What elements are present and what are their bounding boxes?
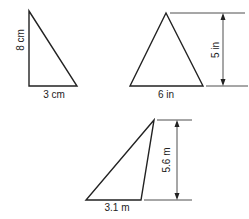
arrowhead-icon: [221, 79, 226, 86]
triangle-2-height-label: 5 in: [211, 35, 221, 65]
triangle-3-shape: [86, 120, 154, 200]
triangle-2-shape: [130, 13, 203, 86]
triangle-3-height-label: 5.6 m: [162, 143, 172, 177]
triangle-1-shape: [29, 11, 77, 86]
arrowhead-icon: [175, 120, 180, 127]
triangle-2-base-label: 6 in: [150, 90, 182, 100]
arrowhead-icon: [221, 13, 226, 20]
triangle-3-base-label: 3.1 m: [100, 203, 134, 213]
triangle-1-height-label: 8 cm: [16, 25, 26, 55]
triangles-diagram: [0, 0, 249, 219]
triangle-1-base-label: 3 cm: [38, 90, 70, 100]
arrowhead-icon: [175, 193, 180, 200]
